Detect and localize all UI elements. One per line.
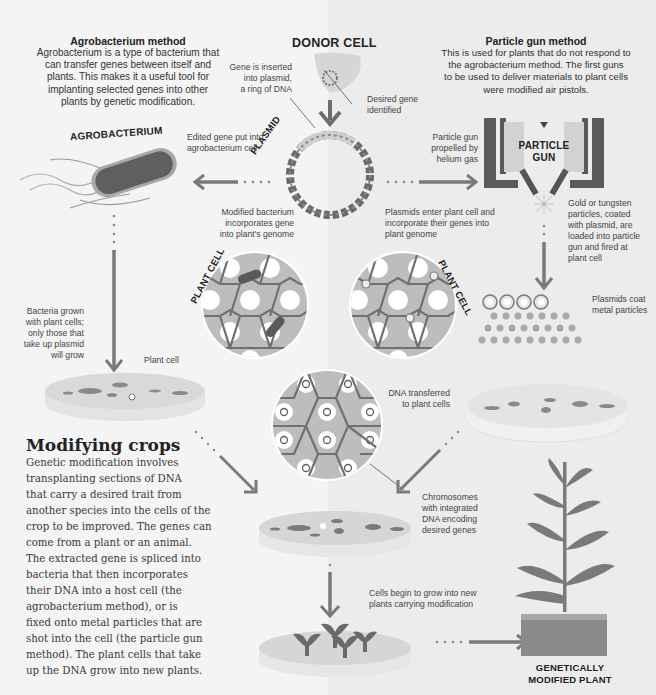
gene-inserted-label: Gene is inserted into plasmid, a ring of… xyxy=(226,62,292,95)
modifying-crops-title: Modifying crops xyxy=(26,435,256,455)
arrow-to-particle-gun xyxy=(383,172,483,192)
edited-gene-label: Edited gene put into agrobacterium cell xyxy=(187,132,263,154)
plant-cell-dish-label: Plant cell xyxy=(144,355,179,366)
petri-dish-right xyxy=(462,376,632,446)
plasmids-coat-label: Plasmids coat metal particles xyxy=(592,294,647,316)
agrobacterium-illustration xyxy=(20,138,180,218)
particle-gun-propelled-label: Particle gun propelled by helium gas xyxy=(418,132,478,165)
petri-dish-left xyxy=(40,365,210,425)
particle-gun-method-body: This is used for plants that do not resp… xyxy=(436,47,636,96)
modifying-crops-section: Modifying crops Genetic modification inv… xyxy=(26,435,256,679)
arrow-diagonal-right xyxy=(384,428,464,498)
gm-plant-label: GENETICALLY MODIFIED PLANT xyxy=(505,662,635,685)
coated-particles xyxy=(480,292,580,312)
arrow-down-left xyxy=(108,210,128,370)
particle-gun-method-title: Particle gun method xyxy=(436,35,636,47)
arrow-down-right xyxy=(535,224,555,294)
plasmids-enter-label: Plasmids enter plant cell and incorporat… xyxy=(385,207,525,240)
particle-gun-label: PARTICLE GUN xyxy=(518,140,570,164)
agrobacterium-method-title: Agrobacterium method xyxy=(28,35,228,47)
donor-cell-title: DONOR CELL xyxy=(292,36,377,50)
particle-gun-method-intro: Particle gun method This is used for pla… xyxy=(436,35,636,96)
modified-bacterium-label: Modified bacterium incorporates gene int… xyxy=(196,207,294,240)
agrobacterium-method-intro: Agrobacterium method Agrobacterium is a … xyxy=(28,35,228,108)
metal-particles-grid xyxy=(480,312,600,348)
petri-dish-sprouts xyxy=(255,614,415,684)
genetically-modified-plant-illustration xyxy=(515,456,625,656)
dna-transferred-label: DNA transferred to plant cells xyxy=(370,388,450,410)
arrow-down-center xyxy=(316,562,346,622)
plasmid-ring xyxy=(280,125,380,225)
gold-tungsten-label: Gold or tungsten particles, coated with … xyxy=(568,198,656,264)
cells-grow-label: Cells begin to grow into new plants carr… xyxy=(369,588,476,610)
chromosomes-label: Chromosomes with integrated DNA encoding… xyxy=(422,492,478,536)
petri-dish-center xyxy=(255,504,415,560)
bacteria-grown-label: Bacteria grown with plant cells; only th… xyxy=(14,306,84,361)
arrow-to-agrobacterium xyxy=(190,172,280,192)
agrobacterium-method-body: Agrobacterium is a type of bacterium tha… xyxy=(28,47,228,108)
modifying-crops-body: Genetic modification involves transplant… xyxy=(26,455,256,679)
desired-gene-label: Desired gene identified xyxy=(367,94,418,116)
